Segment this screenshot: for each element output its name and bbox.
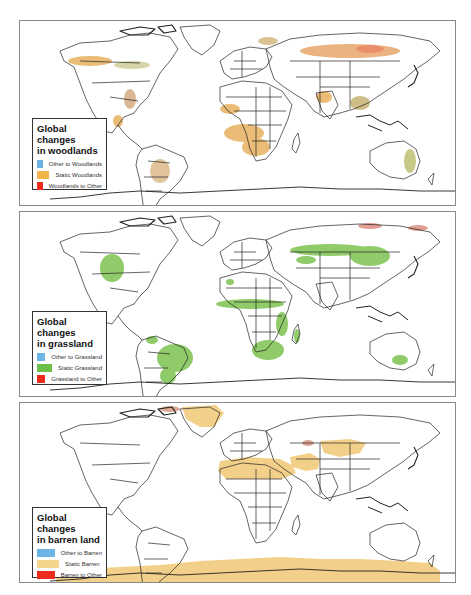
swatch-green bbox=[37, 364, 52, 372]
legend-item-other-to-barren: Other to Barren bbox=[37, 548, 102, 558]
legend-item-other-to-woodlands: Other to Woodlands bbox=[37, 159, 102, 169]
swatch-blue bbox=[37, 353, 45, 361]
legend-item-other-to-grassland: Other to Grassland bbox=[37, 352, 102, 362]
swatch-blue bbox=[37, 160, 43, 168]
barren-regions bbox=[56, 405, 440, 583]
legend-item-static-barren: Static Barren bbox=[37, 559, 102, 569]
legend-grassland: Global changes in grassland Other to Gra… bbox=[32, 311, 107, 385]
map-panel-grassland: Global changes in grassland Other to Gra… bbox=[19, 211, 456, 397]
map-panel-woodlands: Global changes in woodlands Other to Woo… bbox=[19, 20, 456, 206]
legend-item-static-grassland: Static Grassland bbox=[37, 363, 102, 373]
legend-item-static-woodlands: Static Woodlands bbox=[37, 170, 102, 180]
map-panel-barren: Global changes in barren land Other to B… bbox=[19, 402, 456, 583]
swatch-tan bbox=[37, 560, 59, 568]
legend-item-grassland-to-other: Grassland to Other bbox=[37, 374, 102, 384]
legend-title: Global changes in barren land bbox=[37, 512, 102, 545]
country-borders bbox=[50, 407, 456, 583]
legend-title: Global changes in grassland bbox=[37, 316, 102, 349]
legend-item-barren-to-other: Barren to Other bbox=[37, 570, 102, 580]
swatch-orange bbox=[37, 171, 49, 179]
swatch-red bbox=[37, 571, 55, 579]
swatch-red bbox=[37, 182, 43, 190]
legend-title: Global changes in woodlands bbox=[37, 123, 102, 156]
swatch-red bbox=[37, 375, 45, 383]
legend-item-woodlands-to-other: Woodlands to Other bbox=[37, 181, 102, 191]
legend-barren: Global changes in barren land Other to B… bbox=[32, 507, 107, 578]
legend-woodlands: Global changes in woodlands Other to Woo… bbox=[32, 118, 107, 190]
swatch-blue bbox=[37, 549, 55, 557]
